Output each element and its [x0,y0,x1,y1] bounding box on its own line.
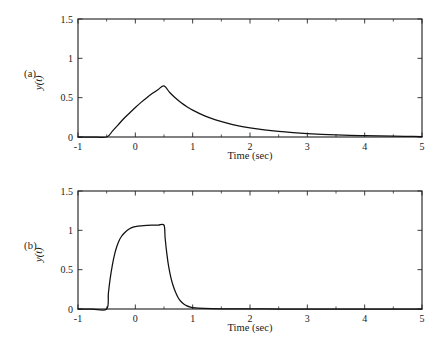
y-tick-label-b: 0 [68,304,73,315]
x-tick-label-a: 4 [362,141,367,152]
x-tick-label-b: 2 [248,313,253,324]
x-tick-label-a: 5 [420,141,425,152]
x-tick-label-b: 5 [420,313,425,324]
data-curve-b [78,224,422,310]
plot-area-b: -101234500.511.5 [0,172,447,344]
plot-area-a: -101234500.511.5 [0,0,447,172]
x-tick-label-a: 2 [248,141,253,152]
figure-container: (a) y(t) Time (sec) -101234500.511.5 (b)… [0,0,447,344]
data-curve-a [78,86,422,138]
x-tick-label-b: 4 [362,313,367,324]
y-tick-label-a: 0 [68,132,73,143]
y-tick-label-a: 0.5 [61,92,74,103]
x-tick-label-a: -1 [74,141,82,152]
x-tick-label-a: 1 [190,141,195,152]
y-tick-label-a: 1 [68,53,73,64]
x-tick-label-b: 0 [133,313,138,324]
plot-panel-a: (a) y(t) Time (sec) -101234500.511.5 [0,0,447,172]
y-tick-label-b: 1.5 [61,186,74,197]
y-tick-label-a: 1.5 [61,14,74,25]
x-tick-label-a: 0 [133,141,138,152]
x-tick-label-b: 1 [190,313,195,324]
axis-frame-a [78,19,422,137]
y-tick-label-b: 1 [68,225,73,236]
x-tick-label-a: 3 [305,141,310,152]
axis-frame-b [78,191,422,309]
x-tick-label-b: -1 [74,313,82,324]
x-tick-label-b: 3 [305,313,310,324]
y-tick-label-b: 0.5 [61,264,74,275]
plot-panel-b: (b) y(t) Time (sec) -101234500.511.5 [0,172,447,344]
